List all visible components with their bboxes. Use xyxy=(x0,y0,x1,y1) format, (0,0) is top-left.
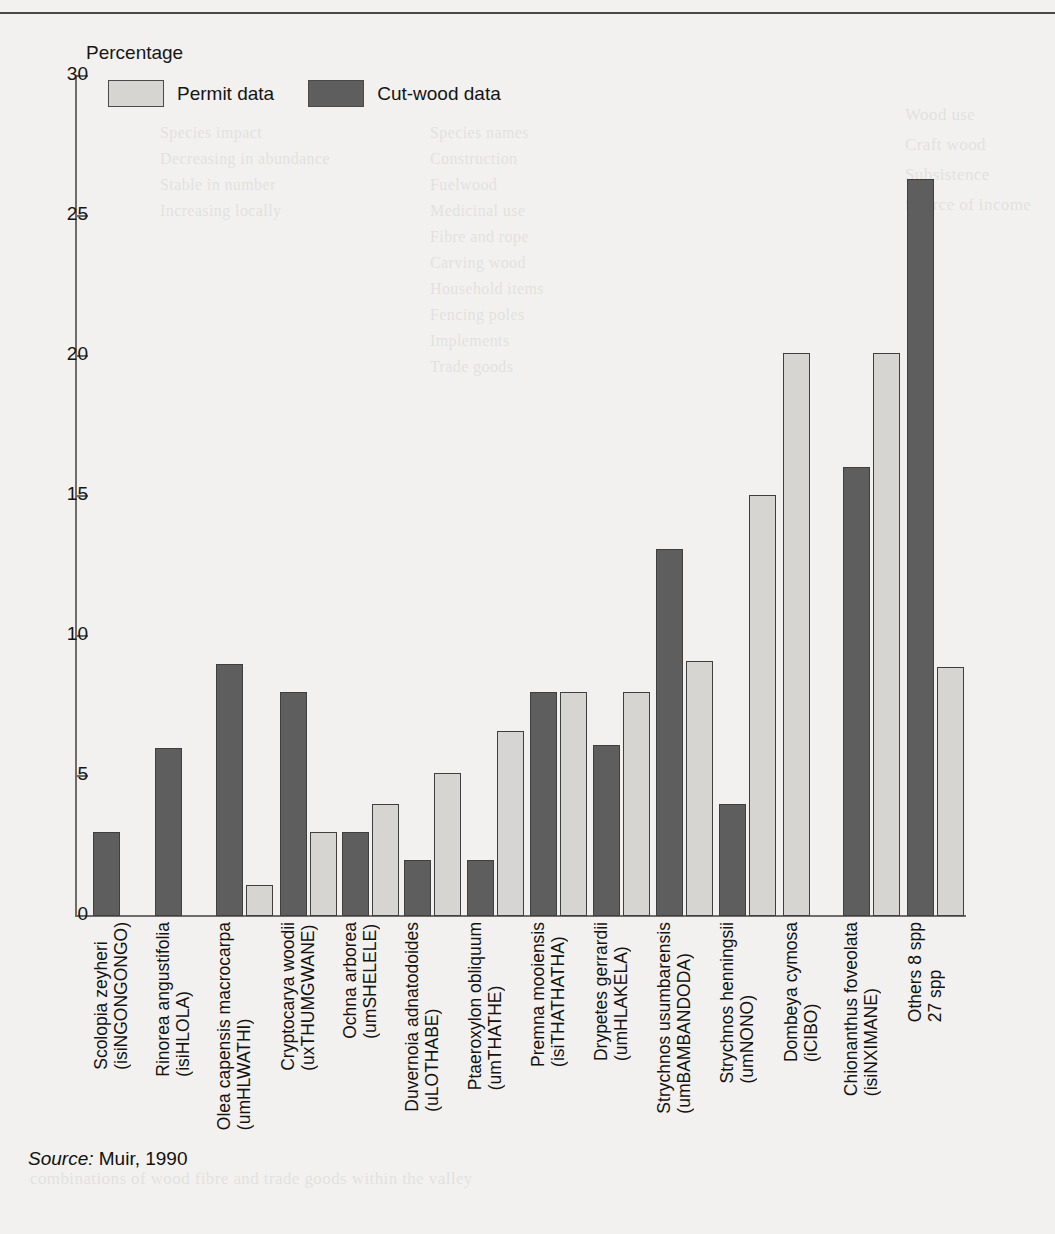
category-label: Premna mooiensis (isiTHATHATHA) xyxy=(528,922,568,1067)
bar-cutwood[interactable] xyxy=(280,692,307,916)
bar-cutwood[interactable] xyxy=(530,692,557,916)
bar-series-container xyxy=(75,75,966,916)
category-label: Cryptocarya woodii (uxTHUMGWANE) xyxy=(278,922,318,1071)
category-label: Scolopia zeyheri (isiNGONGONGO) xyxy=(91,922,131,1070)
bar-group xyxy=(593,692,650,916)
category-label: Strychnos henningsii (umNONO) xyxy=(717,922,757,1083)
bar-cutwood[interactable] xyxy=(342,832,369,916)
y-axis-title: Percentage xyxy=(86,42,183,64)
category-label: Chionanthus foveolata (isiNXIMANE) xyxy=(841,922,881,1096)
source-label: Source: xyxy=(28,1148,93,1169)
category-label: Strychnos usumbarensis (umBAMBANDODA) xyxy=(654,922,694,1114)
bar-group xyxy=(907,179,964,916)
bar-cutwood[interactable] xyxy=(216,664,243,916)
bar-group xyxy=(280,692,337,916)
bar-cutwood[interactable] xyxy=(467,860,494,916)
bar-cutwood[interactable] xyxy=(404,860,431,916)
bar-group xyxy=(155,748,182,916)
bar-group xyxy=(404,773,461,916)
bar-permit[interactable] xyxy=(560,692,587,916)
plot-area: Percentage 0 5 10 15 20 xyxy=(0,0,1055,1234)
bar-permit[interactable] xyxy=(434,773,461,916)
bar-group xyxy=(342,804,399,916)
bar-group xyxy=(216,664,273,916)
bar-cutwood[interactable] xyxy=(593,745,620,916)
bar-permit[interactable] xyxy=(749,495,776,916)
bar-permit[interactable] xyxy=(372,804,399,916)
source-value: Muir, 1990 xyxy=(99,1148,188,1169)
bar-group xyxy=(719,495,776,916)
category-labels-container: Scolopia zeyheri (isiNGONGONGO)Rinorea a… xyxy=(75,922,966,1182)
bar-group xyxy=(93,832,120,916)
bar-permit[interactable] xyxy=(937,667,964,916)
bar-cutwood[interactable] xyxy=(843,467,870,916)
category-label: Olea capensis macrocarpa (umHLWATHI) xyxy=(214,922,254,1130)
bar-permit[interactable] xyxy=(623,692,650,916)
bar-group xyxy=(783,353,810,916)
bar-permit[interactable] xyxy=(310,832,337,916)
bar-permit[interactable] xyxy=(873,353,900,916)
category-label: Drypetes gerrardii (umHLAKELA) xyxy=(591,922,631,1061)
bar-group xyxy=(467,731,524,916)
bar-group xyxy=(656,549,713,916)
bar-group xyxy=(530,692,587,916)
bar-permit[interactable] xyxy=(497,731,524,916)
bar-cutwood[interactable] xyxy=(719,804,746,916)
figure-species-utilisation: Percentage 0 5 10 15 20 xyxy=(0,0,1055,1234)
category-label: Duvernoia adnatodoides (uLOTHABE) xyxy=(402,922,442,1112)
bar-cutwood[interactable] xyxy=(907,179,934,916)
category-label: Others 8 spp 27 spp xyxy=(905,922,945,1022)
bar-permit[interactable] xyxy=(246,885,273,916)
category-label: Ochna arborea (umSHELELE) xyxy=(340,922,380,1039)
category-label: Dombeya cymosa (iCIBO) xyxy=(781,922,821,1062)
bar-permit[interactable] xyxy=(686,661,713,916)
bar-cutwood[interactable] xyxy=(93,832,120,916)
bar-permit[interactable] xyxy=(783,353,810,916)
source-line: Source: Muir, 1990 xyxy=(28,1148,188,1170)
category-label: Rinorea angustifolia (isiHLOLA) xyxy=(153,922,193,1077)
bar-cutwood[interactable] xyxy=(656,549,683,916)
category-label: Ptaeroxylon obliquum (umTHATHE) xyxy=(465,922,505,1090)
bar-group xyxy=(843,353,900,916)
bar-cutwood[interactable] xyxy=(155,748,182,916)
